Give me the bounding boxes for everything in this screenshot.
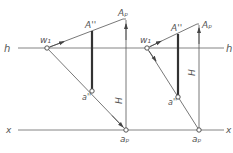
projection-diagram: h h x x w₁ A'' Aₚ a'' aₚ H xyxy=(0,0,233,153)
x-axis-label-right: x xyxy=(225,125,232,135)
left-H-label: H xyxy=(114,97,124,104)
left-Ap-label: Aₚ xyxy=(117,8,128,18)
left-ap-label: aₚ xyxy=(120,134,130,144)
left-a-dd-label: a'' xyxy=(82,93,91,102)
right-ap-point xyxy=(197,128,201,132)
right-Ap-label: Aₚ xyxy=(201,20,212,30)
right-ap-label: aₚ xyxy=(192,134,202,144)
right-w1-label: w₁ xyxy=(140,35,151,45)
h-axis-label-right: h xyxy=(226,43,232,54)
right-diag-arrow xyxy=(149,51,156,61)
right-A-dd-label: A'' xyxy=(170,23,182,33)
right-a-dd-label: a'' xyxy=(168,98,177,107)
left-diag-arrow xyxy=(112,116,123,128)
left-figure: w₁ A'' Aₚ a'' aₚ H xyxy=(40,8,130,144)
h-axis-label-left: h xyxy=(4,43,10,54)
left-A-dd-label: A'' xyxy=(84,20,96,30)
right-w1-ap-line xyxy=(147,48,199,130)
right-H-label: H xyxy=(187,69,197,76)
left-w1-point xyxy=(45,46,49,50)
left-w1-label: w₁ xyxy=(40,35,51,45)
left-w1-Ap-arrow xyxy=(50,42,64,47)
left-ap-point xyxy=(124,128,128,132)
right-w1-point xyxy=(145,46,149,50)
right-w1-Ap-arrow xyxy=(150,41,161,46)
x-axis-label-left: x xyxy=(5,125,12,135)
right-figure: w₁ A'' Aₚ a'' aₚ H xyxy=(140,20,212,144)
